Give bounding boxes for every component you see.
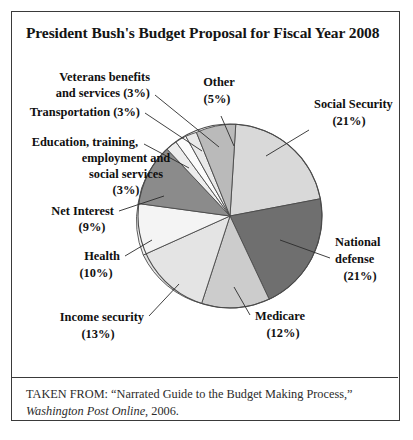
label-health: Health	[84, 249, 120, 263]
label-national-defense-line2: defense	[335, 252, 375, 266]
label-social-security-percent: (21%)	[332, 114, 365, 128]
source-divider	[12, 377, 398, 378]
label-education-line1: Education, training,	[32, 135, 138, 149]
pie-chart: Veterans benefits and services (3%) Tran…	[12, 12, 398, 362]
pie-chart-svg: Veterans benefits and services (3%) Tran…	[12, 12, 398, 362]
label-net-interest-percent: (9%)	[79, 220, 106, 234]
label-medicare: Medicare	[255, 309, 305, 323]
label-education-percent: (3%)	[113, 183, 140, 197]
label-national-defense-percent: (21%)	[343, 269, 376, 283]
leader-line-income-security	[149, 284, 179, 316]
label-other: Other	[203, 75, 235, 89]
source-year: , 2006.	[145, 404, 179, 418]
label-education-line2: employment and	[82, 151, 171, 165]
label-health-percent: (10%)	[79, 266, 112, 280]
label-income-security-percent: (13%)	[81, 327, 114, 341]
label-social-security: Social Security	[314, 97, 394, 111]
label-national-defense-line1: National	[335, 235, 381, 249]
label-education-line3: social services	[89, 167, 163, 181]
source-note: TAKEN FROM: “Narrated Guide to the Budge…	[26, 386, 386, 419]
label-veterans-line2: and services (3%)	[56, 86, 150, 100]
figure-frame: President Bush's Budget Proposal for Fis…	[11, 11, 400, 421]
label-other-percent: (5%)	[204, 92, 231, 106]
source-prefix: TAKEN FROM: “Narrated Guide to the Budge…	[26, 387, 353, 401]
label-income-security: Income security	[60, 310, 145, 324]
label-veterans-line1: Veterans benefits	[59, 70, 150, 84]
label-net-interest: Net Interest	[51, 204, 115, 218]
source-publication: Washington Post Online	[26, 404, 145, 418]
label-medicare-percent: (12%)	[266, 326, 299, 340]
label-transportation: Transportation (3%)	[30, 105, 140, 119]
